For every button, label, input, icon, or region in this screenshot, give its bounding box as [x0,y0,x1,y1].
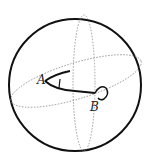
label-point-b: B [89,100,99,114]
sphere-diagram: A B [0,0,148,164]
loop-at-b [95,87,108,100]
angle-mark-at-a [59,79,60,88]
label-point-a: A [36,73,46,87]
outer-sphere-circle [9,19,141,151]
arc-from-a-upper [45,71,70,81]
curve-from-a-to-b [45,81,95,93]
meridian-dotted-ellipse [73,15,95,151]
equator-dotted-ellipse [6,44,147,118]
